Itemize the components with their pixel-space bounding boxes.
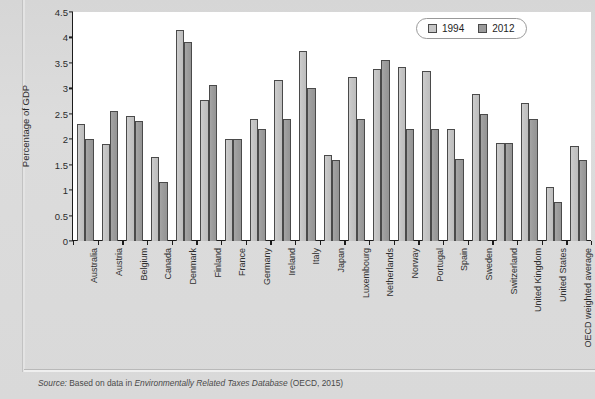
- x-axis-tick-label: Denmark: [188, 248, 198, 285]
- page-edge-line-highlight: [23, 0, 25, 372]
- bar-oecd-weighted-average-2012: [579, 160, 587, 241]
- x-axis-tick-label: Japan: [336, 248, 346, 273]
- bar-united-kingdom-2012: [529, 119, 537, 241]
- bar-united-states-2012: [554, 202, 562, 241]
- source-text-b: (OECD, 2015): [288, 378, 343, 388]
- x-axis-tick-mark: [418, 241, 419, 245]
- x-axis-tick-mark: [394, 241, 395, 245]
- source-text-a: Based on data in: [67, 378, 135, 388]
- x-axis-tick-mark: [542, 241, 543, 245]
- legend-item-1994: 1994: [428, 23, 464, 34]
- chart-legend: 1994 2012: [416, 18, 527, 39]
- bar-france-1994: [225, 139, 233, 241]
- y-axis-label: Percentage of GDP: [20, 85, 31, 167]
- bar-portugal-1994: [422, 71, 430, 241]
- bar-belgium-1994: [126, 116, 134, 241]
- bar-luxembourg-2012: [357, 119, 365, 241]
- x-axis-tick-label: Austria: [114, 248, 124, 276]
- x-axis-tick-mark: [517, 241, 518, 245]
- x-axis-tick-mark: [221, 241, 222, 245]
- figure-page: Percentage of GDP 00.511.522.533.544.5 A…: [0, 0, 595, 399]
- legend-swatch-icon-2012: [478, 24, 487, 33]
- bar-australia-2012: [85, 139, 93, 241]
- x-axis-tick-mark: [320, 241, 321, 245]
- x-axis-tick-mark: [369, 241, 370, 245]
- x-axis-tick-label: Norway: [410, 248, 420, 279]
- bar-netherlands-1994: [373, 69, 381, 241]
- x-axis-tick-mark: [172, 241, 173, 245]
- bar-canada-1994: [151, 157, 159, 241]
- legend-label-2012: 2012: [492, 23, 514, 34]
- bar-austria-2012: [110, 111, 118, 241]
- bar-sweden-2012: [480, 114, 488, 241]
- x-axis-tick-label: Sweden: [484, 248, 494, 281]
- bar-oecd-weighted-average-1994: [570, 146, 578, 241]
- x-axis-tick-mark: [443, 241, 444, 245]
- x-axis-tick-label: Luxembourg: [361, 248, 371, 298]
- x-axis-tick-mark: [270, 241, 271, 245]
- footer-divider-highlight: [24, 370, 595, 372]
- x-axis-tick-mark: [122, 241, 123, 245]
- bar-france-2012: [233, 139, 241, 241]
- x-axis-tick-label: Germany: [262, 248, 272, 285]
- bar-finland-2012: [209, 85, 217, 241]
- bar-australia-1994: [77, 124, 85, 241]
- bar-germany-2012: [258, 129, 266, 241]
- bars-layer: [73, 12, 591, 241]
- bar-denmark-1994: [176, 30, 184, 241]
- bar-japan-1994: [324, 155, 332, 241]
- x-axis-tick-mark: [73, 241, 74, 245]
- bar-ireland-1994: [274, 80, 282, 241]
- bar-canada-2012: [159, 182, 167, 241]
- bar-denmark-2012: [184, 42, 192, 241]
- x-axis-tick-label: United States: [558, 248, 568, 302]
- bar-sweden-1994: [472, 94, 480, 241]
- x-axis-tick-label: United Kingdom: [533, 248, 543, 312]
- x-axis-tick-label: Ireland: [287, 248, 297, 276]
- bar-italy-1994: [299, 51, 307, 241]
- bar-switzerland-1994: [496, 143, 504, 241]
- x-axis-tick-label: OECD weighted average: [583, 248, 593, 348]
- x-axis-tick-mark: [344, 241, 345, 245]
- bar-belgium-2012: [135, 121, 143, 241]
- x-axis-tick-mark: [147, 241, 148, 245]
- x-axis-tick-mark: [246, 241, 247, 245]
- bar-norway-1994: [398, 67, 406, 241]
- bar-germany-1994: [250, 119, 258, 241]
- bar-spain-1994: [447, 129, 455, 241]
- x-axis-tick-label: France: [237, 248, 247, 276]
- x-axis-tick-label: Belgium: [139, 248, 149, 281]
- x-axis-tick-label: Portugal: [435, 248, 445, 282]
- bar-luxembourg-1994: [348, 77, 356, 241]
- legend-item-2012: 2012: [478, 23, 514, 34]
- bar-united-kingdom-1994: [521, 103, 529, 241]
- bar-portugal-2012: [431, 129, 439, 241]
- x-axis-tick-label: Italy: [311, 248, 321, 265]
- x-axis-tick-mark: [468, 241, 469, 245]
- bar-switzerland-2012: [505, 143, 513, 241]
- bar-japan-2012: [332, 160, 340, 241]
- x-axis-tick-label: Finland: [213, 248, 223, 278]
- bar-united-states-1994: [546, 187, 554, 241]
- bar-finland-1994: [200, 100, 208, 241]
- source-italic-title: Environmentally Related Taxes Database: [134, 378, 287, 388]
- x-axis-tick-mark: [591, 241, 592, 245]
- bar-spain-2012: [455, 159, 463, 241]
- x-axis-tick-label: Netherlands: [385, 248, 395, 297]
- bar-austria-1994: [102, 144, 110, 241]
- source-prefix: Source:: [38, 378, 67, 388]
- x-axis-tick-mark: [566, 241, 567, 245]
- x-axis-tick-mark: [295, 241, 296, 245]
- x-axis-tick-mark: [196, 241, 197, 245]
- x-axis-tick-label: Canada: [163, 248, 173, 280]
- legend-swatch-icon-1994: [428, 24, 437, 33]
- bar-italy-2012: [307, 88, 315, 241]
- legend-label-1994: 1994: [442, 23, 464, 34]
- bar-ireland-2012: [283, 119, 291, 241]
- x-axis-tick-label: Switzerland: [509, 248, 519, 295]
- x-axis-tick-mark: [492, 241, 493, 245]
- x-axis-tick-label: Spain: [459, 248, 469, 271]
- x-axis-tick-mark: [98, 241, 99, 245]
- figure-title-cropped: [150, 0, 530, 5]
- bar-norway-2012: [406, 129, 414, 241]
